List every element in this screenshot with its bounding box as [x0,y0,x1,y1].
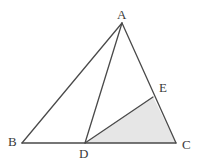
segment-ab [22,23,122,143]
vertex-label-e: E [159,81,167,94]
geometry-figure: A B C D E [0,0,198,163]
vertex-label-d: D [79,147,88,160]
vertex-label-b: B [8,135,17,148]
geometry-canvas [0,0,198,163]
shaded-triangle-dec [85,97,176,143]
vertex-label-a: A [117,8,126,21]
vertex-label-c: C [182,138,191,151]
